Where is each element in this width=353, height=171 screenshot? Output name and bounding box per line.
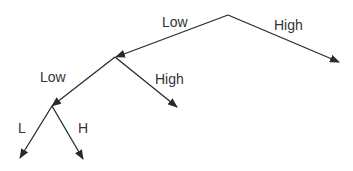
edge-label-low-low: Low: [40, 69, 67, 85]
edges-layer: [20, 15, 339, 159]
edge-label-root-low: Low: [162, 14, 189, 30]
labels-layer: LowHighLowHighLH: [18, 14, 303, 136]
tree-diagram: LowHighLowHighLH: [0, 0, 353, 171]
edge-label-root-high: High: [274, 17, 303, 33]
edge-label-lowlow-h: H: [78, 120, 88, 136]
edge-label-lowlow-l: L: [18, 120, 26, 136]
edge-label-low-high: High: [155, 71, 184, 87]
